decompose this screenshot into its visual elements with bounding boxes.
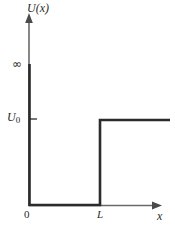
u0-symbol: U — [7, 110, 16, 124]
infinity-label: ∞ — [12, 58, 22, 70]
potential-curve — [30, 64, 171, 205]
plot-canvas — [0, 0, 175, 226]
x-axis-label: x — [157, 210, 162, 222]
potential-energy-figure: U(x) x ∞ U0 0 L — [0, 0, 175, 226]
origin-label: 0 — [24, 209, 30, 220]
u0-subscript: 0 — [16, 115, 21, 125]
y-axis-label: U(x) — [27, 2, 49, 14]
u0-label: U0 — [7, 111, 20, 125]
barrier-edge-label: L — [97, 209, 103, 220]
